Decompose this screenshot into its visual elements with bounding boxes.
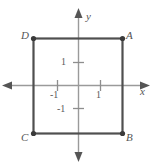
vertex-label-a: A	[126, 30, 133, 41]
x-axis-left-arrow-icon	[2, 82, 12, 90]
y-axis-bottom-arrow-icon	[75, 152, 83, 162]
coordinate-plane-figure: A B C D x y -1 1 1 -1	[0, 0, 154, 167]
vertex-point-A	[120, 36, 125, 41]
vertex-point-B	[120, 131, 125, 136]
y-tick-label-1: 1	[61, 57, 66, 67]
vertex-label-b: B	[126, 132, 133, 143]
vertex-label-d: D	[21, 30, 29, 41]
vertex-label-c: C	[21, 132, 28, 143]
y-axis-top-arrow-icon	[75, 8, 83, 18]
y-axis-label: y	[86, 11, 91, 22]
vertex-point-D	[31, 36, 36, 41]
x-tick-label-1: 1	[96, 90, 101, 100]
x-axis-label: x	[140, 86, 145, 97]
x-tick-label--1: -1	[50, 90, 58, 100]
vertex-point-C	[31, 131, 36, 136]
y-tick-label--1: -1	[57, 104, 65, 114]
